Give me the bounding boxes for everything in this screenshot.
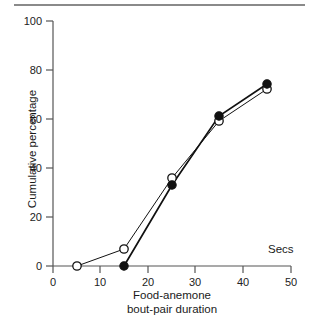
y-tick-marks	[46, 21, 53, 266]
series-line-filled-circle	[124, 84, 267, 266]
x-axis-label: Food-anemone bout-pair duration	[53, 288, 291, 316]
x-tick-label-50: 50	[285, 277, 297, 288]
x-tick-label-0: 0	[50, 277, 56, 288]
series-markers-open-circle	[73, 85, 271, 270]
x-tick-label-20: 20	[142, 277, 154, 288]
x-tick-label-30: 30	[189, 277, 201, 288]
x-axis-units-label: Secs	[268, 243, 294, 255]
y-axis-label: Cumulative percentage	[26, 64, 38, 234]
x-tick-marks	[53, 266, 291, 273]
y-tick-label-0: 0	[16, 261, 42, 272]
x-axis-label-line2: bout-pair duration	[53, 302, 291, 316]
x-tick-label-10: 10	[94, 277, 106, 288]
x-axis-label-line1: Food-anemone	[53, 288, 291, 302]
x-tick-label-40: 40	[237, 277, 249, 288]
y-tick-label-100: 100	[16, 16, 42, 27]
series-markers-filled-circle	[120, 80, 271, 270]
chart-plot-area	[0, 0, 312, 324]
figure-container: 100 80 60 40 20 0 0 10 20 30 40 50 Cumul…	[0, 0, 312, 324]
